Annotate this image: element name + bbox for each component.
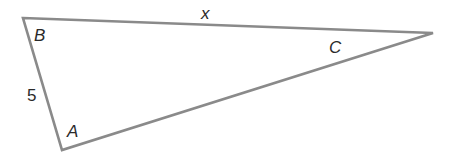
triangle-diagram: B C A x 5	[0, 0, 458, 167]
triangle-shape	[23, 18, 433, 150]
vertex-label-a: A	[66, 122, 78, 141]
side-label-ab: 5	[27, 86, 36, 105]
vertex-label-b: B	[34, 26, 45, 45]
side-label-bc: x	[200, 4, 210, 23]
vertex-label-c: C	[329, 38, 342, 57]
